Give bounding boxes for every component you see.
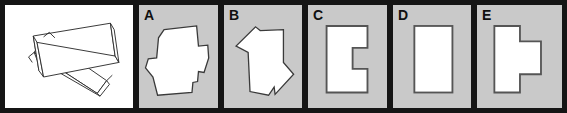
option-label-a: A	[144, 7, 154, 23]
option-label-b: B	[229, 7, 239, 23]
option-label-d: D	[398, 7, 408, 23]
panel-option-a[interactable]: A	[136, 0, 221, 113]
stimulus-artwork	[5, 5, 133, 108]
panel-option-c[interactable]: C	[305, 0, 390, 113]
multiple-choice-figure: A B C D E	[0, 0, 567, 113]
panel-stimulus[interactable]	[0, 0, 136, 113]
panel-option-b[interactable]: B	[221, 0, 305, 113]
option-label-c: C	[313, 7, 323, 23]
panel-option-d[interactable]: D	[390, 0, 474, 113]
option-label-e: E	[482, 7, 491, 23]
panel-option-e[interactable]: E	[474, 0, 567, 113]
